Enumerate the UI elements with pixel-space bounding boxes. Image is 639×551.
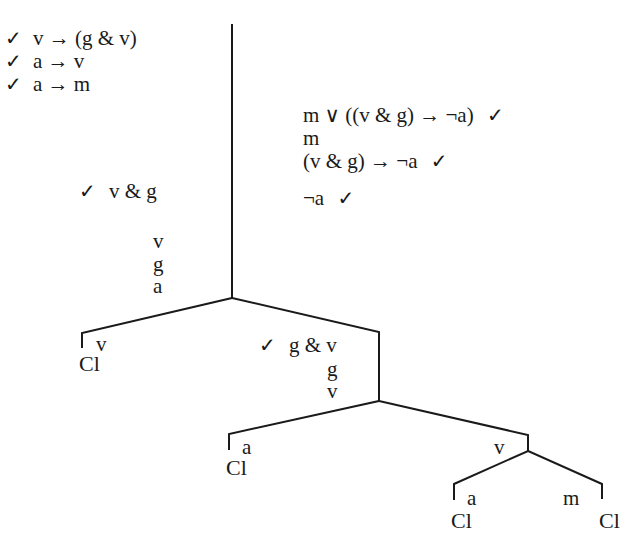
formula-text: (v & g) → ¬a xyxy=(303,149,418,173)
premise-formula: a → v xyxy=(33,49,84,73)
premise-3: ✓ a → m xyxy=(5,73,90,95)
branch3-left-formula: a xyxy=(467,487,476,509)
trunk-formula-4: ¬a ✓ xyxy=(303,187,354,209)
tree-lines xyxy=(0,0,639,551)
premise-1: ✓ v → (g & v) xyxy=(5,27,137,49)
branch3-right-formula: m xyxy=(563,487,579,509)
check-icon: ✓ xyxy=(5,26,22,50)
formula-text: g & v xyxy=(289,333,337,357)
branch3-left-closed: Cl xyxy=(451,510,472,532)
branch1-right-formula-3: v xyxy=(327,380,338,402)
branch1-left-closed: Cl xyxy=(79,353,100,375)
premise-formula: v → (g & v) xyxy=(33,26,137,50)
premise-2: ✓ a → v xyxy=(5,50,84,72)
branch2-left-closed: Cl xyxy=(226,457,247,479)
check-icon: ✓ xyxy=(5,72,22,96)
branch2-right-formula: v xyxy=(494,436,505,458)
check-icon: ✓ xyxy=(487,103,504,127)
trunk-formula-2: m xyxy=(303,127,319,149)
check-icon: ✓ xyxy=(5,49,22,73)
formula-text: ¬a xyxy=(303,186,324,210)
branch3-left-line xyxy=(454,451,528,499)
check-icon: ✓ xyxy=(337,186,354,210)
branch1-right-formula-1: ✓ g & v xyxy=(259,334,337,356)
check-icon: ✓ xyxy=(431,149,448,173)
check-icon: ✓ xyxy=(79,179,96,203)
premise-formula: a → m xyxy=(33,72,90,96)
branch1-right-formula-2: g xyxy=(327,358,338,380)
branch3-right-closed: Cl xyxy=(599,510,620,532)
left-trunk-formula-2: v xyxy=(153,230,164,252)
formula-text: m xyxy=(303,126,319,150)
left-trunk-formula-3: g xyxy=(153,253,164,275)
trunk-formula-1: m ∨ ((v & g) → ¬a) ✓ xyxy=(303,104,504,126)
check-icon: ✓ xyxy=(259,333,276,357)
branch2-right-line xyxy=(379,401,528,451)
formula-text: m ∨ ((v & g) → ¬a) xyxy=(303,103,474,127)
left-trunk-formula-4: a xyxy=(153,275,162,297)
left-trunk-formula-1: ✓ v & g xyxy=(79,180,157,202)
formula-text: v & g xyxy=(109,179,157,203)
branch2-left-line xyxy=(229,401,379,449)
trunk-formula-3: (v & g) → ¬a ✓ xyxy=(303,150,448,172)
